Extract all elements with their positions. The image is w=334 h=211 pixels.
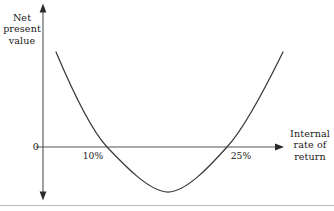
y-axis-label: Net present value (3, 12, 41, 46)
y-axis-arrow-down-icon (40, 192, 47, 201)
npv-curve-path (56, 52, 283, 192)
bottom-divider (0, 205, 334, 206)
x-intercept-label-right: 25% (228, 151, 254, 162)
npv-irr-plot (0, 0, 334, 211)
x-intercept-label-left: 10% (80, 151, 106, 162)
origin-tick-label: 0 (27, 141, 39, 152)
x-axis-label: Internal rate of return (287, 128, 333, 162)
npv-irr-figure: Net present value Internal rate of retur… (0, 0, 334, 211)
x-axis-arrow-right-icon (275, 144, 284, 151)
npv-curve (56, 52, 283, 192)
